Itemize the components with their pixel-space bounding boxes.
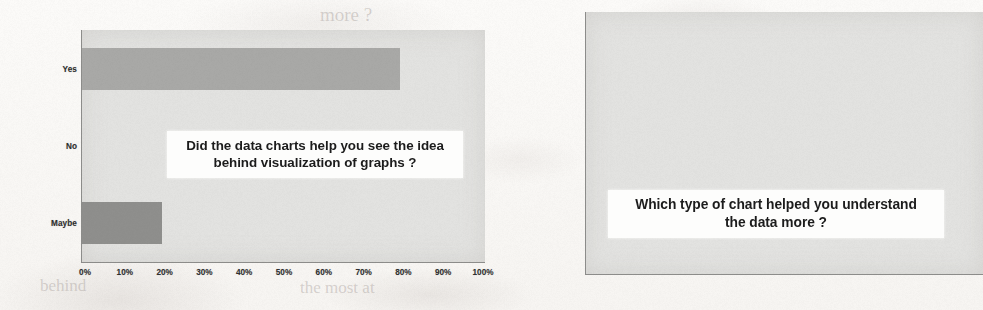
category-label-no: No <box>31 142 77 151</box>
y-axis-line-right <box>585 12 586 275</box>
x-axis-line-left <box>81 262 485 263</box>
chart-right-title-line-2: the data more ? <box>612 214 940 232</box>
chart-right-title: Which type of chart helped you understan… <box>608 190 944 238</box>
x-tick-80pct: 80% <box>395 268 411 277</box>
chart-left-title: Did the data charts help you see the ide… <box>167 131 463 178</box>
x-tick-0pct: 0% <box>79 268 91 277</box>
chart-left-title-line-2: behind visualization of graphs ? <box>171 154 459 171</box>
x-tick-30pct: 30% <box>196 268 212 277</box>
x-tick-60pct: 60% <box>316 268 332 277</box>
x-tick-40pct: 40% <box>236 268 252 277</box>
category-label-maybe: Maybe <box>31 219 77 228</box>
x-tick-90pct: 90% <box>435 268 451 277</box>
chart-left: YesNoMaybe 0%10%20%30%40%50%60%70%80%90%… <box>0 0 500 310</box>
x-tick-20pct: 20% <box>156 268 172 277</box>
chart-left-title-line-1: Did the data charts help you see the ide… <box>171 137 459 154</box>
chart-right: Scatter ChartsColumn ChartsPie ChartsLin… <box>500 0 983 310</box>
chart-right-title-line-1: Which type of chart helped you understan… <box>612 196 940 214</box>
category-label-yes: Yes <box>31 64 77 73</box>
bar-maybe <box>82 202 162 244</box>
x-tick-70pct: 70% <box>355 268 371 277</box>
x-tick-100pct: 100% <box>473 268 494 277</box>
x-tick-50pct: 50% <box>276 268 292 277</box>
bar-yes <box>82 48 400 90</box>
x-tick-10pct: 10% <box>117 268 133 277</box>
x-axis-line-right <box>585 274 983 275</box>
